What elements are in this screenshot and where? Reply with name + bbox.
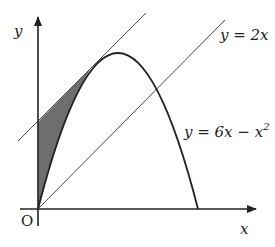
y-axis-label: y (13, 22, 23, 40)
origin-label: O (21, 212, 33, 230)
line-equation-label: y = 2x (219, 26, 269, 44)
shaded-region (38, 68, 91, 209)
parabola-exponent: 2 (262, 121, 269, 132)
graph-figure: y x O y = 2x y = 6x − x2 (0, 0, 275, 247)
parabola-equation-main: y = 6x − x (183, 123, 264, 141)
x-axis-label: x (240, 220, 249, 238)
parabola-curve (38, 53, 198, 209)
parabola-equation-label: y = 6x − x2 (183, 121, 270, 141)
